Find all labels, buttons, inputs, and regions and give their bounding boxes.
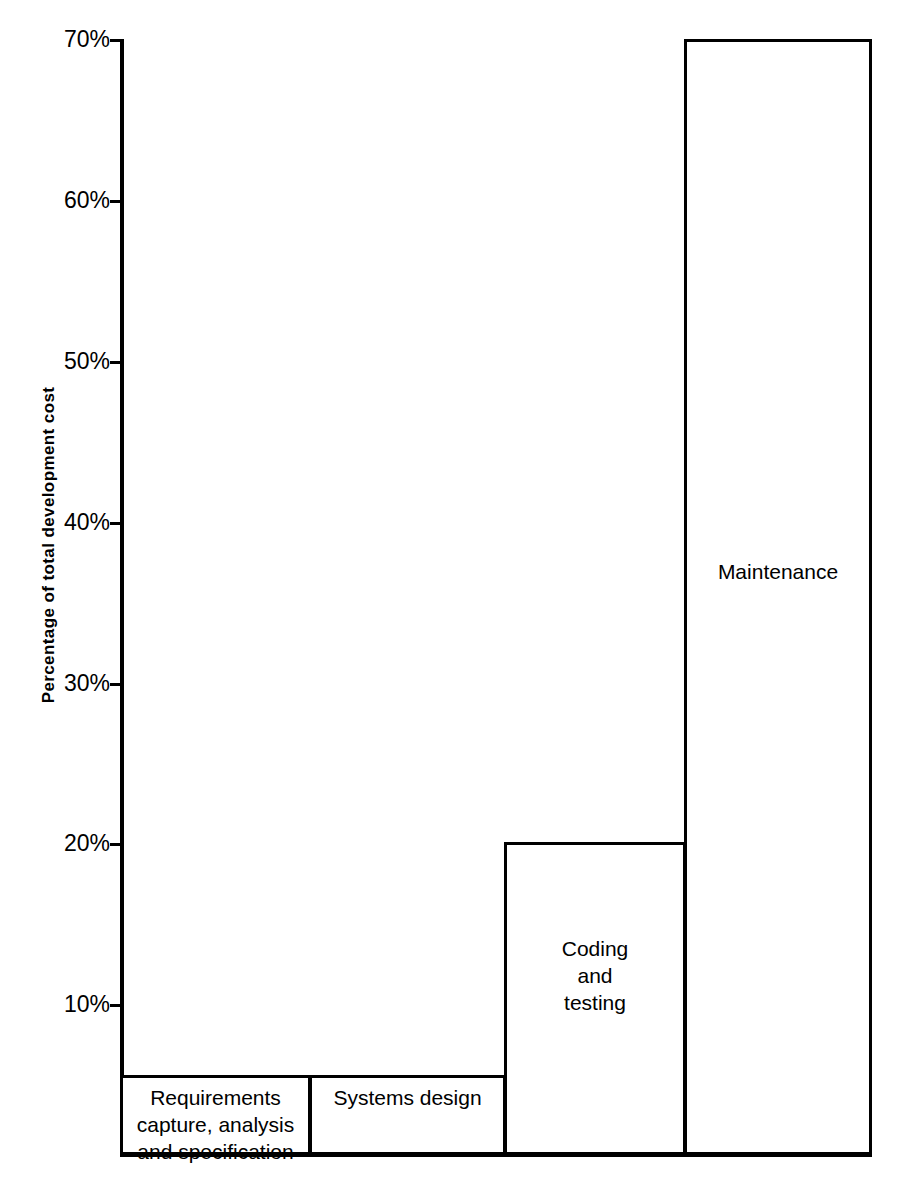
- bar-systems-design[interactable]: Systems design: [309, 1075, 506, 1155]
- y-tick-label-70: 70%: [20, 28, 110, 51]
- y-tick-label-30: 30%: [20, 672, 110, 695]
- y-tick-label-20: 20%: [20, 832, 110, 855]
- y-tick-label-10: 10%: [20, 993, 110, 1016]
- y-tick-label-40: 40%: [20, 511, 110, 534]
- bar-label-maintenance: Maintenance: [687, 558, 869, 585]
- y-axis-title: Percentage of total development cost: [34, 330, 64, 760]
- bar-label-coding-testing: Coding and testing: [507, 935, 683, 1016]
- bar-label-systems-design: Systems design: [312, 1084, 503, 1111]
- bar-chart: Percentage of total development cost 70%…: [0, 0, 902, 1184]
- bar-coding-testing[interactable]: Coding and testing: [504, 842, 686, 1155]
- y-tick-label-60: 60%: [20, 189, 110, 212]
- y-tick-label-50: 50%: [20, 350, 110, 373]
- bar-maintenance[interactable]: Maintenance: [684, 39, 872, 1155]
- y-axis-line: [120, 39, 124, 1157]
- bar-label-requirements: Requirements capture, analysis and speci…: [123, 1084, 308, 1165]
- bar-requirements[interactable]: Requirements capture, analysis and speci…: [120, 1075, 311, 1155]
